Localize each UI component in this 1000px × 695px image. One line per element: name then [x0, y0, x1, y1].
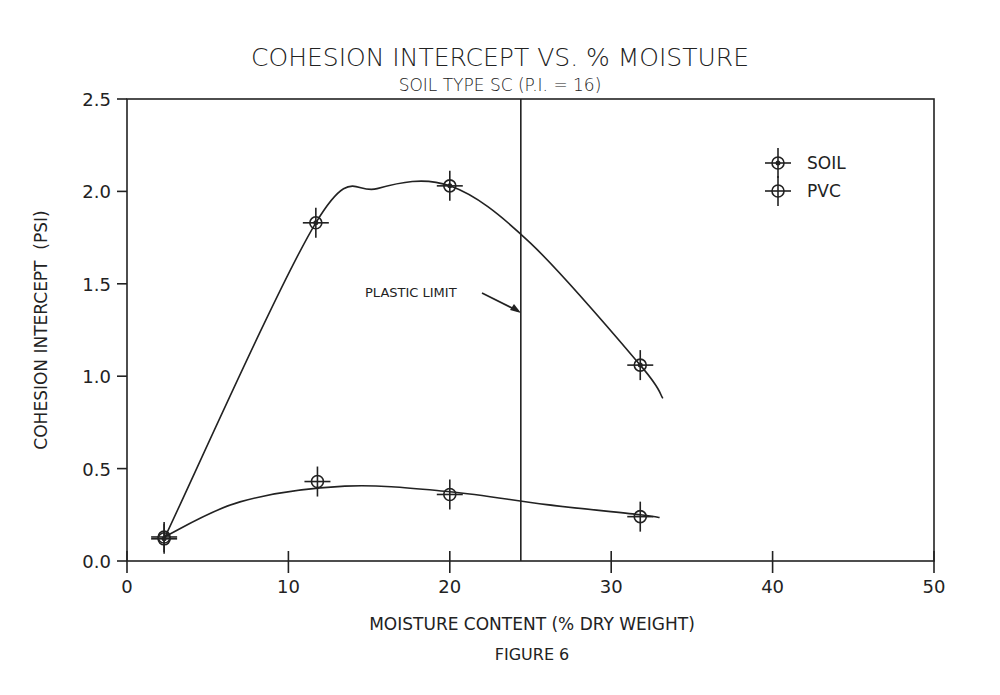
y-tick-label: 1.5 [82, 274, 111, 295]
soil-point-marker-icon [437, 171, 463, 201]
y-tick-label: 0.5 [82, 459, 111, 480]
x-tick-label: 50 [923, 576, 946, 597]
y-tick-label: 0.0 [82, 551, 111, 572]
x-tick-label: 20 [438, 576, 461, 597]
figure-caption: FIGURE 6 [495, 645, 570, 664]
soil-legend-marker-icon [765, 148, 791, 178]
pvc-legend-marker-icon [765, 176, 791, 206]
soil-curve [164, 181, 663, 539]
x-axis-ticks: 01020304050 [121, 551, 945, 597]
plastic-limit-label: PLASTIC LIMIT [365, 285, 457, 300]
legend-label: SOIL [807, 153, 846, 173]
soil-point-marker-icon [303, 208, 329, 238]
x-axis-label: MOISTURE CONTENT (% DRY WEIGHT) [369, 614, 695, 634]
chart-subtitle: SOIL TYPE SC (P.I. = 16) [399, 75, 602, 95]
series-group [151, 171, 663, 554]
legend: SOILPVC [765, 148, 846, 206]
pvc-point-marker-icon [304, 467, 330, 497]
y-axis-ticks: 0.00.51.01.52.02.5 [82, 89, 127, 572]
pvc-curve [164, 486, 659, 537]
chart: COHESION INTERCEPT VS. % MOISTURE SOIL T… [0, 0, 1000, 695]
y-tick-label: 2.5 [82, 89, 111, 110]
x-tick-label: 30 [600, 576, 623, 597]
y-tick-label: 2.0 [82, 181, 111, 202]
y-axis-label: COHESION INTERCEPT (PSI) [31, 210, 51, 449]
x-tick-label: 10 [277, 576, 300, 597]
y-tick-label: 1.0 [82, 366, 111, 387]
legend-label: PVC [807, 181, 841, 201]
x-tick-label: 0 [121, 576, 132, 597]
x-tick-label: 40 [761, 576, 784, 597]
soil-point-marker-icon [151, 524, 177, 554]
pvc-point-marker-icon [627, 502, 653, 532]
pvc-point-marker-icon [437, 479, 463, 509]
chart-title: COHESION INTERCEPT VS. % MOISTURE [251, 43, 749, 72]
arrow-head-icon [510, 304, 521, 313]
